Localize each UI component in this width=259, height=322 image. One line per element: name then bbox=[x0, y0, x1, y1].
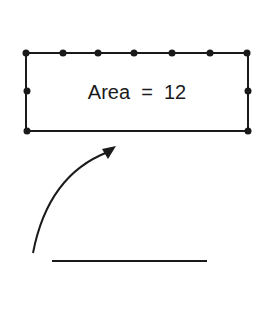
area-label: Area = 12 bbox=[26, 53, 248, 131]
curved-arrow-icon bbox=[33, 146, 116, 253]
diagram-canvas bbox=[0, 0, 259, 322]
